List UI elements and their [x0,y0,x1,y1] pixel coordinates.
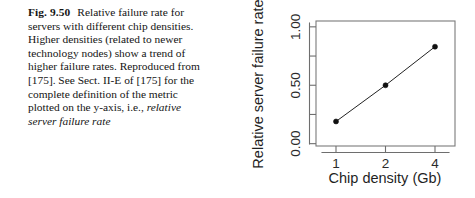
data-series [334,44,438,124]
y-axis-title: Relative server failure rate [250,0,266,169]
data-point [383,83,388,88]
y-axis-ticks [310,27,317,144]
figure-caption: Fig. 9.50Relative failure rate for serve… [28,6,200,128]
x-axis-title: Chip density (Gb) [329,170,442,186]
y-axis: 0.000.501.00 Relative server failure rat… [250,0,316,169]
chart-figure: 0.000.501.00 Relative server failure rat… [230,0,475,198]
line-chart: 0.000.501.00 Relative server failure rat… [230,0,475,198]
y-axis-tick-labels: 0.000.501.00 [288,14,303,157]
y-tick-label: 1.00 [288,14,303,40]
x-tick-label: 1 [332,156,340,171]
data-point [334,119,339,124]
caption-body: Relative failure rate for servers with d… [28,6,200,113]
x-axis-ticks [336,146,435,153]
x-tick-label: 2 [382,156,390,171]
y-tick-label: 0.00 [288,131,303,157]
x-axis-tick-labels: 124 [332,156,439,171]
y-tick-label: 0.50 [288,72,303,98]
x-tick-label: 4 [431,156,439,171]
figure-number: Fig. 9.50 [28,6,70,18]
data-point [433,44,438,49]
x-axis: 124 Chip density (Gb) [322,146,449,186]
